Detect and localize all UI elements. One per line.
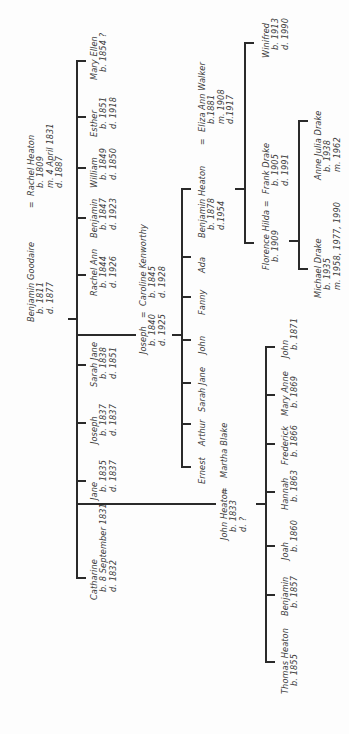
person-john-j: John: [198, 336, 207, 354]
sibling-bar-joseph: [181, 188, 183, 468]
person-catharine: Catharine b. 8 September 1831 d. 1832: [90, 503, 118, 600]
person-benjamin-goodaire: Benjamin Goodaire b. 1811 d. 1877: [27, 242, 55, 322]
person-anne-julia-drake: Anne Julia Drake b. 1938 m. 1962: [314, 111, 342, 180]
tick-ada: [181, 256, 191, 258]
tick-winifred: [244, 42, 254, 44]
tick-mary-ellen: [76, 60, 86, 62]
marriage-symbol: =: [262, 200, 271, 207]
tick-joseph-1837: [76, 422, 86, 424]
tick-john-j: [181, 339, 191, 341]
person-ernest: Ernest: [198, 457, 207, 484]
tick-john-1871: [265, 346, 275, 348]
person-caroline-kenworthy: Caroline Kenworthy b. 1845 d. 1928: [139, 224, 167, 306]
person-eliza-ann-walker: Eliza Ann Walker b.1881 m. 1908 d.1917: [198, 62, 236, 132]
sibling-bar-florence: [298, 120, 300, 270]
family-tree-canvas: Benjamin Goodaire b. 1811 d. 1877 = Rach…: [0, 0, 349, 734]
person-rachel-heaton: Rachel Heaton b. 1809 m. 4 April 1831 d.…: [27, 123, 65, 196]
tick-benjamin-1857: [265, 594, 275, 596]
tick-michael-drake: [298, 268, 308, 270]
person-esther: Esther b. 1851 d. 1918: [90, 97, 118, 137]
tick-thomas-heaton: [265, 661, 275, 663]
person-frank-drake: Frank Drake b. 1905 d. 1991: [262, 143, 290, 194]
person-benjamin-heaton-1878: Benjamin Heaton b. 1878 d.1954: [198, 166, 226, 238]
tick-benjamin-heaton: [181, 188, 191, 190]
person-michael-drake: Michael Drake b. 1935 m. 1958, 1977, 199…: [314, 202, 342, 298]
tick-jane: [76, 480, 86, 482]
tick-rachel-ann: [76, 274, 86, 276]
tick-florence-hilda: [244, 242, 254, 244]
person-sarah-jane-j: Sarah Jane: [198, 367, 207, 412]
person-william: William b. 1849 d. 1850: [90, 148, 118, 188]
person-hannah: Hannah b. 1863: [281, 470, 300, 510]
tick-frederick: [265, 443, 275, 445]
tick-benjamin-1847: [76, 217, 86, 219]
tick-fanny: [181, 296, 191, 298]
tick-hannah: [265, 491, 275, 493]
tick-arthur: [181, 423, 191, 425]
person-john-1871: John b. 1871: [281, 318, 300, 358]
person-jane: Jane b. 1835 d. 1837: [90, 460, 118, 500]
person-joseph-1837: Joseph b. 1837 d. 1837: [90, 404, 118, 444]
person-arthur: Arthur: [198, 419, 207, 446]
person-thomas-heaton: Thomas Heaton b. 1855: [281, 628, 300, 694]
person-ada: Ada: [198, 257, 207, 273]
tick-mary-anne: [265, 394, 275, 396]
person-benjamin-1847: Benjamin b. 1847 d. 1923: [90, 198, 118, 238]
person-frederick: Frederick b. 1866: [281, 425, 300, 465]
tick-catharine: [76, 577, 86, 579]
tick-sarah-jane-j: [181, 382, 191, 384]
tick-william: [76, 167, 86, 169]
person-winifred: Winifred b. 1913 d. 1990: [262, 18, 290, 58]
marriage-symbol: =: [27, 201, 36, 208]
person-mary-ellen: Mary Ellen b. 1854 ?: [90, 33, 109, 80]
person-mary-anne: Mary Anne b. 1869: [281, 371, 300, 416]
person-benjamin-1857: Benjamin b. 1857: [281, 576, 300, 616]
marriage-symbol: =: [139, 311, 148, 318]
person-rachel-ann: Rachel Ann b. 1844 d. 1926: [90, 249, 118, 296]
person-joah: Joah b. 1860: [281, 520, 300, 560]
person-fanny: Fanny: [198, 290, 207, 315]
person-martha-blake: Martha Blake: [220, 423, 229, 478]
person-sarah-jane-1838: Sarah Jane b. 1838 d. 1851: [90, 342, 118, 387]
sibling-bar-benjamin-heaton: [244, 42, 246, 244]
tick-anne-julia-drake: [298, 120, 308, 122]
marriage-symbol: =: [198, 138, 207, 145]
tick-sarah-jane: [76, 364, 86, 366]
branch-joseph-1840: [76, 334, 136, 336]
person-florence-hilda: Florence Hilda b. 1909: [262, 210, 281, 270]
tick-esther: [76, 116, 86, 118]
tick-joah: [265, 545, 275, 547]
marriage-symbol: =: [220, 487, 229, 494]
person-john-heaton: John Heaton b. 1833 d. ?: [220, 489, 248, 540]
tick-ernest: [181, 466, 191, 468]
sibling-bar-goodaire: [76, 60, 78, 579]
person-joseph-1840: Joseph b. 1840 d. 1925: [139, 314, 167, 354]
